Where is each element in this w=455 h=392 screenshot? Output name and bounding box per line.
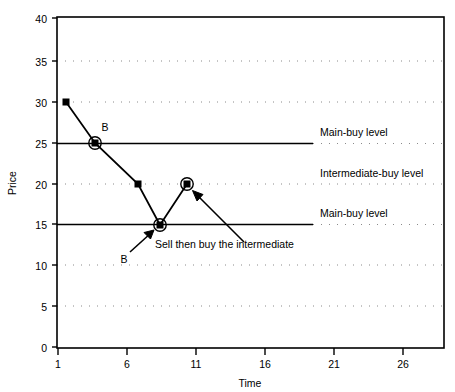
- y-tick-label: 25: [35, 138, 47, 150]
- y-tick-label: 5: [41, 301, 47, 313]
- y-tick-label: 15: [35, 219, 47, 231]
- x-axis-ticks: [58, 348, 403, 355]
- x-tick-label: 1: [55, 358, 61, 370]
- x-axis-tick-labels: 1 6 11 16 21 26: [55, 358, 409, 370]
- buy-label-lower: B: [120, 253, 127, 265]
- data-point-marker: [157, 222, 164, 229]
- y-tick-label: 35: [35, 56, 47, 68]
- y-axis-title: Price: [6, 171, 18, 195]
- plot-background: [57, 17, 444, 348]
- y-tick-label: 10: [35, 260, 47, 272]
- data-point-marker: [63, 99, 70, 106]
- main-buy-level-label-upper: Main-buy level: [320, 126, 388, 138]
- main-buy-level-label-lower: Main-buy level: [320, 207, 388, 219]
- x-tick-label: 21: [328, 358, 340, 370]
- y-axis-tick-labels: 0 5 10 15 20 25 30 35 40: [35, 13, 47, 354]
- y-tick-label: 0: [41, 342, 47, 354]
- data-point-marker: [135, 181, 142, 188]
- x-tick-label: 26: [397, 358, 409, 370]
- y-tick-label: 30: [35, 97, 47, 109]
- sell-then-buy-note: Sell then buy the intermediate: [155, 238, 294, 250]
- chart-canvas: 0 5 10 15 20 25 30 35 40 1 6 11 16 21 26: [0, 0, 455, 392]
- x-axis-title: Time: [239, 377, 262, 389]
- y-tick-label: 20: [35, 179, 47, 191]
- buy-label-upper: B: [101, 121, 108, 133]
- x-tick-label: 6: [124, 358, 130, 370]
- data-point-marker: [184, 181, 191, 188]
- x-tick-label: 16: [259, 358, 271, 370]
- data-point-marker: [92, 140, 99, 147]
- price-time-chart: 0 5 10 15 20 25 30 35 40 1 6 11 16 21 26: [0, 0, 455, 392]
- intermediate-buy-level-label: Intermediate-buy level: [320, 167, 423, 179]
- y-tick-label: 40: [35, 13, 47, 25]
- x-tick-label: 11: [191, 358, 202, 370]
